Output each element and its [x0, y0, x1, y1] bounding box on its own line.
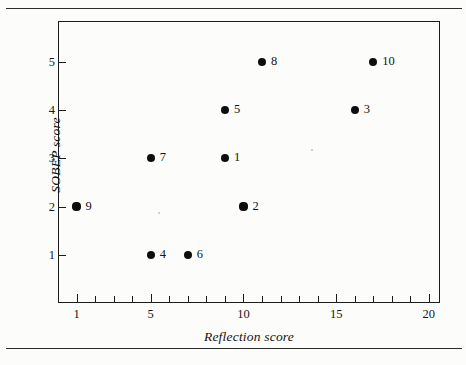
data-point-marker: [351, 106, 359, 114]
x-axis-tick: [77, 294, 78, 303]
data-point-marker: [239, 202, 247, 210]
x-axis-tick: [114, 296, 115, 303]
y-axis-tick: [58, 62, 66, 63]
scatter-plot-figure: 151015201234594761528310 Reflection scor…: [58, 21, 440, 303]
x-axis-tick: [410, 296, 411, 303]
data-point-label: 1: [234, 150, 240, 165]
data-point-label: 4: [160, 247, 166, 262]
data-point-label: 6: [197, 247, 203, 262]
x-axis-tick: [225, 296, 226, 303]
y-axis-title: SOBEP score: [48, 95, 64, 215]
data-point-label: 5: [234, 102, 240, 117]
x-axis-tick-label: 15: [330, 307, 343, 322]
y-axis-tick-label: 1: [41, 247, 55, 262]
x-axis-tick: [336, 294, 337, 303]
x-axis-tick: [262, 296, 263, 303]
data-point-label: 9: [86, 199, 92, 214]
x-axis-tick: [151, 294, 152, 303]
x-axis-tick-label: 1: [73, 307, 79, 322]
x-axis-tick-label: 20: [423, 307, 436, 322]
data-point-marker: [221, 106, 229, 114]
data-point-label: 7: [160, 150, 166, 165]
y-axis-tick-label: 5: [41, 54, 55, 69]
x-axis-tick: [132, 296, 133, 303]
data-point-marker: [258, 58, 266, 66]
x-axis-tick: [299, 296, 300, 303]
x-axis-tick: [373, 296, 374, 303]
x-axis-tick: [95, 296, 96, 303]
x-axis-tick: [188, 296, 189, 303]
data-point-label: 3: [364, 102, 370, 117]
data-point-label: 10: [382, 54, 395, 69]
x-axis-tick: [355, 296, 356, 303]
scan-speck: [311, 149, 313, 151]
data-point-marker: [147, 251, 155, 259]
x-axis-title: Reflection score: [58, 329, 440, 345]
x-axis-tick: [429, 294, 430, 303]
scanned-page: 151015201234594761528310 Reflection scor…: [0, 0, 466, 365]
x-axis-tick: [169, 296, 170, 303]
data-point-marker: [72, 202, 80, 210]
page-rule-bottom: [6, 348, 462, 349]
data-point-label: 8: [271, 54, 277, 69]
x-axis-tick: [318, 296, 319, 303]
data-point-marker: [369, 58, 377, 66]
plot-area: 151015201234594761528310: [58, 21, 440, 303]
x-axis-tick-label: 10: [237, 307, 250, 322]
data-point-marker: [221, 154, 229, 162]
x-axis-tick-label: 5: [148, 307, 154, 322]
x-axis-tick: [243, 294, 244, 303]
x-axis-tick: [392, 296, 393, 303]
y-axis-tick: [58, 255, 66, 256]
data-point-marker: [184, 251, 192, 259]
x-axis-tick: [281, 296, 282, 303]
data-point-label: 2: [252, 199, 258, 214]
x-axis-tick: [206, 296, 207, 303]
data-point-marker: [147, 154, 155, 162]
page-rule-top: [6, 8, 462, 9]
scan-speck: [158, 212, 160, 214]
